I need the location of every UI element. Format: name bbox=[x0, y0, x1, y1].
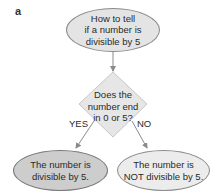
start-node: How to tell if a number is divisible by … bbox=[66, 8, 160, 52]
no-result-node: The number is NOT divisible by 5. bbox=[117, 150, 210, 191]
start-text-line1: How to tell bbox=[84, 13, 141, 25]
decision-text-line2: number end bbox=[83, 101, 143, 113]
no-edge-label: NO bbox=[137, 118, 151, 129]
yes-result-line2: divisible by 5. bbox=[30, 171, 91, 183]
decision-text-line1: Does the bbox=[83, 89, 143, 101]
yes-edge-label: YES bbox=[69, 118, 88, 129]
decision-text-line3: in 0 or 5? bbox=[83, 112, 143, 124]
yes-result-line1: The number is bbox=[30, 159, 91, 171]
decision-node-text: Does the number end in 0 or 5? bbox=[83, 89, 143, 124]
no-result-line2: NOT divisible by 5. bbox=[124, 171, 204, 183]
start-text-line2: if a number is bbox=[84, 24, 141, 36]
no-result-line1: The number is bbox=[124, 159, 204, 171]
yes-result-node: The number is divisible by 5. bbox=[13, 150, 108, 191]
start-text-line3: divisible by 5 bbox=[84, 36, 141, 48]
